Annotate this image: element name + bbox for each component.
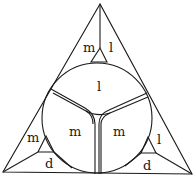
triangle-diagram: m l l m m m d l d	[0, 0, 196, 181]
left-to-circle-line	[54, 152, 72, 168]
label-right-upper: l	[157, 132, 161, 147]
y-divider	[51, 89, 148, 174]
right-to-circle-line	[125, 153, 141, 166]
label-left-upper: m	[27, 130, 39, 145]
label-left-lower: d	[45, 156, 53, 171]
label-top-left: m	[83, 40, 95, 55]
label-top-right: l	[109, 40, 113, 55]
label-circle-right: m	[113, 124, 125, 139]
label-circle-top: l	[97, 79, 101, 94]
label-right-lower: d	[143, 158, 151, 173]
label-circle-left: m	[69, 124, 81, 139]
right-small-triangle	[141, 137, 156, 153]
